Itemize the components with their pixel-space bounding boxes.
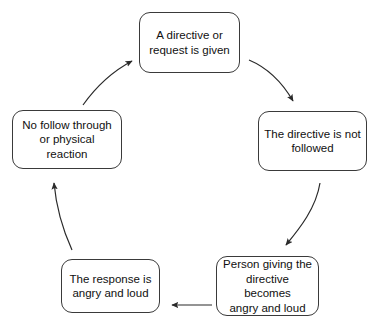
arrow-response-angry-to-no-follow-through <box>54 183 72 250</box>
node-directive-given: A directive or request is given <box>139 12 240 73</box>
arrow-not-followed-to-giver-angry <box>286 183 320 245</box>
arrow-no-follow-through-to-directive-given <box>83 61 132 105</box>
node-giver-angry: Person giving the directive becomes angr… <box>216 256 319 316</box>
cycle-diagram: A directive or request is given The dire… <box>0 0 377 329</box>
node-response-angry: The response is angry and loud <box>61 259 160 313</box>
node-not-followed: The directive is not followed <box>258 111 367 171</box>
arrow-directive-given-to-not-followed <box>249 60 293 101</box>
node-no-follow-through: No follow through or physical reaction <box>12 110 122 169</box>
